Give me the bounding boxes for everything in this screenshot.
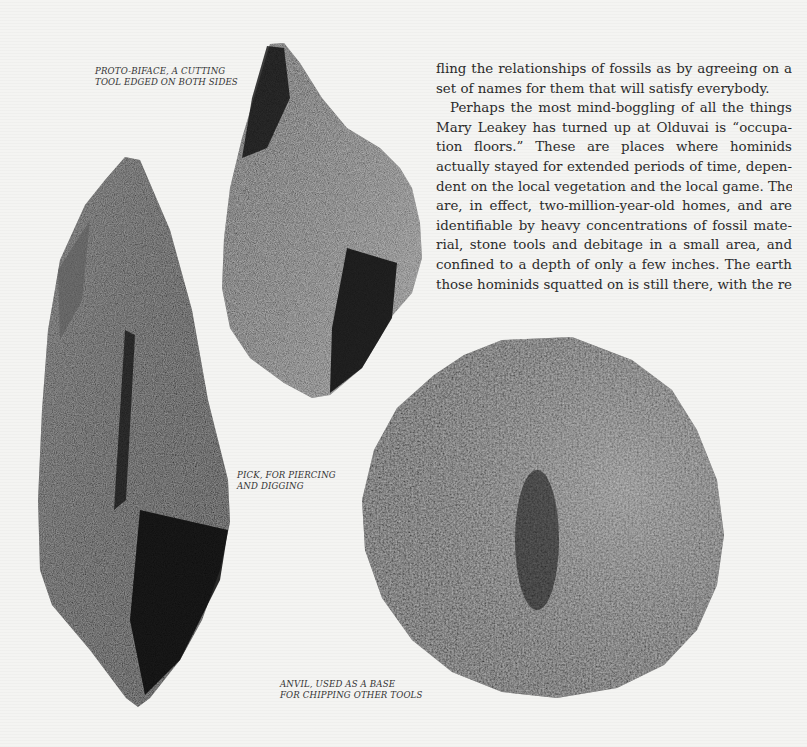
pick-caption: PICK, FOR PIERCING AND DIGGING xyxy=(237,470,377,492)
pick-stone-tool-image xyxy=(30,150,240,715)
caption-line: FOR CHIPPING OTHER TOOLS xyxy=(280,690,450,701)
body-line: fling the relationships of fossils as by… xyxy=(436,59,792,79)
caption-line: PROTO-BIFACE, A CUTTING xyxy=(95,66,265,77)
anvil-caption: ANVIL, USED AS A BASE FOR CHIPPING OTHER… xyxy=(280,679,450,701)
anvil-photo-icon xyxy=(352,330,737,705)
caption-line: PICK, FOR PIERCING xyxy=(237,470,377,481)
paragraph-start-line: Perhaps the most mind-boggling of all th… xyxy=(436,98,792,118)
body-line: tion floors.” These are places where hom… xyxy=(436,137,792,157)
body-line: are, in effect, two-million-year-old hom… xyxy=(436,196,792,216)
body-line: identifiable by heavy concentrations of … xyxy=(436,216,792,236)
body-line: set of names for them that will satisfy … xyxy=(436,79,792,99)
body-line: actually stayed for extended periods of … xyxy=(436,157,792,177)
proto-biface-caption: PROTO-BIFACE, A CUTTING TOOL EDGED ON BO… xyxy=(95,66,265,88)
body-line: those hominids squatted on is still ther… xyxy=(436,275,792,295)
body-line: Mary Leakey has turned up at Olduvai is … xyxy=(436,118,792,138)
caption-line: AND DIGGING xyxy=(237,481,377,492)
body-line: dent on the local vegetation and the loc… xyxy=(436,177,792,197)
caption-line: TOOL EDGED ON BOTH SIDES xyxy=(95,77,265,88)
body-line: rial, stone tools and debitage in a smal… xyxy=(436,235,792,255)
caption-line: ANVIL, USED AS A BASE xyxy=(280,679,450,690)
body-line: confined to a depth of only a few inches… xyxy=(436,255,792,275)
body-text-column: fling the relationships of fossils as by… xyxy=(436,59,792,294)
anvil-stone-tool-image xyxy=(352,330,737,705)
pick-photo-icon xyxy=(30,150,240,715)
